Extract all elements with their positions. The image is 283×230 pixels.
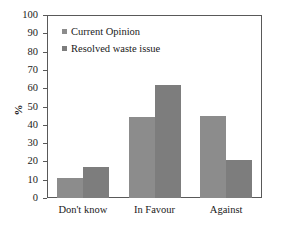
legend-swatch-icon — [62, 46, 67, 51]
legend-item: Resolved waste issue — [62, 41, 192, 56]
legend-item: Current Opinion — [62, 24, 192, 39]
y-axis-tick-mark — [43, 180, 47, 181]
y-axis-tick-mark — [43, 15, 47, 16]
bar — [226, 160, 252, 198]
chart-legend: Current OpinionResolved waste issue — [62, 24, 192, 58]
chart-figure: % 1009080706050403020100 Current Opinion… — [0, 0, 283, 230]
y-axis-tick-label: 30 — [28, 137, 39, 149]
legend-swatch-icon — [62, 29, 67, 34]
y-axis-tick-label: 80 — [28, 46, 39, 58]
legend-item-label: Current Opinion — [71, 26, 140, 38]
y-axis-tick-mark — [43, 70, 47, 71]
y-axis-tick-label: 0 — [33, 192, 38, 204]
y-axis-tick-label: 100 — [22, 9, 38, 21]
x-axis-tick-label: Don't know — [47, 202, 119, 218]
y-axis-tick-label: 60 — [28, 82, 39, 94]
legend-item-label: Resolved waste issue — [71, 43, 160, 55]
y-axis-tick-label: 20 — [28, 155, 39, 167]
y-axis-tick-mark — [43, 33, 47, 34]
y-axis-tick-label: 40 — [28, 119, 39, 131]
y-axis-tick-label: 70 — [28, 64, 39, 76]
y-axis-tick-mark — [43, 125, 47, 126]
y-axis-tick-labels: 1009080706050403020100 — [0, 15, 43, 198]
y-axis-tick-label: 50 — [28, 101, 39, 113]
x-axis-tick-label: In Favour — [119, 202, 191, 218]
y-axis-tick-label: 90 — [28, 27, 39, 39]
y-axis-tick-mark — [43, 198, 47, 199]
y-axis-tick-mark — [43, 161, 47, 162]
y-axis-tick-label: 10 — [28, 174, 39, 186]
y-axis-tick-mark — [43, 52, 47, 53]
bar — [200, 116, 226, 198]
bar — [57, 178, 83, 198]
y-axis-tick-mark — [43, 88, 47, 89]
bar — [83, 167, 109, 198]
x-axis-tick-label: Against — [190, 202, 262, 218]
y-axis-tick-mark — [43, 143, 47, 144]
y-axis-tick-mark — [43, 107, 47, 108]
x-axis-tick-labels: Don't knowIn FavourAgainst — [47, 202, 262, 220]
bar — [129, 117, 155, 198]
bar — [155, 85, 181, 198]
